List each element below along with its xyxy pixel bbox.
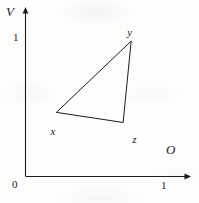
figure-canvas: V 1 0 1 O x y z [0,0,199,203]
vertex-label-y: y [127,27,132,38]
vertex-label-z: z [132,134,136,145]
plot-svg [0,0,199,203]
origin-label-0: 0 [12,179,18,190]
vertex-label-x: x [50,126,55,137]
v-axis-tick-label-1: 1 [13,32,19,43]
o-axis-label: O [166,143,175,156]
v-axis-label: V [6,5,14,18]
v-axis-arrowhead [23,7,29,14]
o-axis-arrowhead [185,174,192,180]
triangle-xyz [56,41,131,122]
o-axis-tick-label-1: 1 [161,180,167,191]
